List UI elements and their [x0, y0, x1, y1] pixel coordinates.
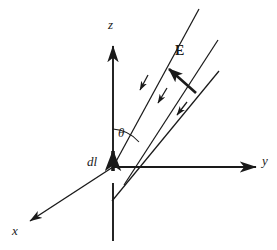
field-line-1: [113, 9, 199, 167]
field-line-2-arrow: [158, 88, 167, 103]
e-field-label: E: [175, 44, 184, 58]
physics-diagram: z y x θ dl E: [0, 0, 277, 250]
field-line-2: [124, 40, 218, 185]
z-axis-label: z: [108, 18, 113, 31]
field-line-3-arrow: [177, 102, 187, 115]
dl-label: dl: [87, 155, 97, 168]
y-axis-label: y: [262, 154, 268, 167]
x-axis: [30, 167, 113, 221]
field-line-1-arrow: [140, 75, 148, 90]
theta-label: θ: [118, 126, 124, 139]
x-axis-label: x: [12, 224, 18, 237]
diagram-canvas: [0, 0, 277, 250]
theta-arc: [113, 129, 139, 142]
